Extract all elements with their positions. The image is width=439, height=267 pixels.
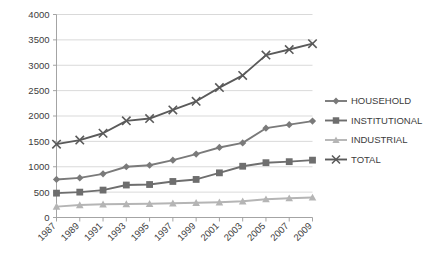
- legend-label: TOTAL: [351, 154, 381, 165]
- x-tick-label: 1995: [128, 220, 151, 243]
- x-tick-label: 2001: [198, 220, 221, 243]
- line-chart-figure: 05001000150020002500300035004000 1987198…: [0, 0, 439, 267]
- series-line: [57, 160, 313, 193]
- x-tick-label: 1993: [105, 220, 128, 243]
- x-tick-label: 2003: [221, 220, 244, 243]
- square-marker: [53, 190, 60, 197]
- square-marker: [286, 158, 293, 165]
- x-tick-label: 1999: [175, 220, 198, 243]
- x-tick-label: 1989: [58, 220, 81, 243]
- diamond-marker: [123, 163, 130, 170]
- cross-marker: [238, 71, 246, 79]
- x-tick-label: 1997: [152, 220, 175, 243]
- y-tick-label: 2000: [28, 110, 49, 121]
- series-line: [57, 121, 313, 179]
- y-tick-label: 1000: [28, 161, 49, 172]
- legend-label: INSTITUTIONAL: [351, 115, 422, 126]
- series-line: [57, 44, 313, 144]
- x-tick-label: 1987: [35, 220, 58, 243]
- square-marker: [309, 157, 316, 164]
- y-tick-label: 2500: [28, 85, 49, 96]
- legend-label: INDUSTRIAL: [351, 134, 407, 145]
- diamond-marker: [146, 162, 153, 169]
- x-tick-label: 2009: [291, 220, 314, 243]
- diamond-marker: [76, 174, 83, 181]
- chart-legend: HOUSEHOLDINSTITUTIONALINDUSTRIALTOTAL: [325, 95, 422, 164]
- y-tick-label: 1500: [28, 136, 49, 147]
- square-marker: [333, 117, 339, 123]
- diamond-marker: [286, 121, 293, 128]
- gridlines: [57, 15, 313, 193]
- diamond-marker: [333, 98, 340, 105]
- square-marker: [216, 169, 223, 176]
- y-axis-tick-labels: 05001000150020002500300035004000: [28, 9, 49, 223]
- y-tick-label: 4000: [28, 9, 49, 20]
- y-tick-label: 3500: [28, 34, 49, 45]
- legend-item-household[interactable]: HOUSEHOLD: [325, 95, 411, 106]
- square-marker: [169, 178, 176, 185]
- y-tick-label: 500: [34, 187, 50, 198]
- square-marker: [263, 159, 270, 166]
- diamond-marker: [169, 157, 176, 164]
- series-line: [57, 197, 313, 206]
- diamond-marker: [99, 170, 106, 177]
- square-marker: [239, 163, 246, 170]
- square-marker: [76, 189, 83, 196]
- diamond-marker: [309, 117, 316, 124]
- diamond-marker: [193, 150, 200, 157]
- y-tick-label: 3000: [28, 60, 49, 71]
- series-industrial: [53, 194, 317, 210]
- legend-item-institutional[interactable]: INSTITUTIONAL: [325, 115, 422, 126]
- cross-marker: [169, 106, 177, 114]
- cross-marker: [192, 97, 200, 105]
- square-marker: [100, 187, 107, 194]
- diamond-marker: [53, 176, 60, 183]
- x-tick-label: 2005: [245, 220, 268, 243]
- square-marker: [123, 182, 130, 189]
- series-household: [53, 117, 316, 183]
- series-total: [52, 39, 316, 148]
- x-tick-label: 1991: [82, 220, 105, 243]
- diamond-marker: [216, 144, 223, 151]
- square-marker: [146, 181, 153, 188]
- x-axis-tick-labels: 1987198919911993199519971999200120032005…: [35, 220, 314, 243]
- legend-label: HOUSEHOLD: [351, 95, 411, 106]
- x-tick-label: 2007: [268, 220, 291, 243]
- legend-item-industrial[interactable]: INDUSTRIAL: [325, 134, 407, 145]
- square-marker: [193, 176, 200, 183]
- chart-canvas: 05001000150020002500300035004000 1987198…: [0, 0, 439, 267]
- legend-item-total[interactable]: TOTAL: [325, 154, 381, 165]
